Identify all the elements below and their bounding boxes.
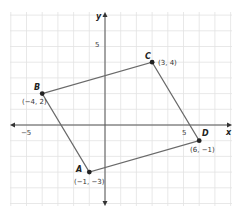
x-tick-label-neg5: −5: [21, 129, 31, 137]
point-b-name: B: [34, 83, 40, 92]
point-c-name: C: [145, 52, 151, 61]
point-a: [87, 170, 92, 175]
point-c-coords: (3, 4): [158, 59, 177, 67]
coordinate-plane: x y −5 5 5 A (−1, −3) B (−4, 2) C (3, 4)…: [0, 0, 235, 214]
point-b: [40, 91, 45, 96]
y-axis-label: y: [96, 12, 102, 21]
y-tick-label-5: 5: [95, 41, 99, 49]
grid-lines: [10, 12, 232, 206]
x-tick-label-5: 5: [182, 129, 186, 137]
point-d-coords: (6, −1): [190, 146, 215, 154]
point-d: [197, 138, 202, 143]
point-b-coords: (−4, 2): [22, 98, 47, 106]
point-a-coords: (−1, −3): [74, 178, 105, 186]
point-a-name: A: [75, 165, 82, 174]
x-axis-label: x: [225, 128, 232, 137]
y-axis-up-arrow-icon: [103, 12, 108, 17]
x-axis-right-arrow-icon: [227, 123, 232, 128]
point-d-name: D: [202, 129, 209, 138]
